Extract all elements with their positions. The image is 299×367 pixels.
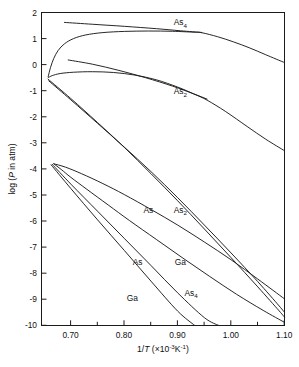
curve-label-as4-lower: As4: [184, 288, 198, 300]
curve-label-as-lower: As: [133, 257, 143, 267]
curve-Ga-lowest-steep-line: [51, 165, 195, 326]
x-axis-title: 1/T (×10-3K-1): [137, 343, 189, 354]
y-tick-label: 1: [32, 34, 37, 44]
curve-label-as4-upper: As4: [174, 17, 188, 29]
label-subscript: 4: [184, 22, 188, 29]
y-axis-ticks: [42, 13, 47, 326]
svg-text:1/T (×10-3K-1): 1/T (×10-3K-1): [137, 343, 189, 354]
label-main: Ga: [127, 293, 139, 303]
y-tick-label: 2: [32, 8, 37, 18]
y-tick-label: -3: [30, 138, 38, 148]
y-tick-label: -10: [25, 320, 37, 330]
y-tick-label: -1: [30, 86, 38, 96]
y-axis-title-pre: log (: [7, 178, 17, 195]
label-main: As: [174, 17, 184, 27]
x-axis-title-close: ): [186, 344, 189, 354]
figure-container: 2 1 0 -1 -2 -3 -4 -5 -6 -7 -8 -9 -10 0.7…: [0, 0, 299, 367]
x-axis-title-open: (×10: [149, 344, 169, 354]
x-tick-label: 1.10: [276, 330, 293, 340]
curve-label-as2-lower: As2: [174, 205, 188, 217]
y-axis-title: log (P in atm): [7, 143, 17, 194]
x-tick-label: 0.70: [62, 330, 79, 340]
label-main: Ga: [175, 257, 187, 267]
y-tick-label: -2: [30, 112, 38, 122]
curve-label-ga-lower: Ga: [127, 293, 139, 303]
x-axis-ticks: [71, 320, 285, 325]
label-main: As: [174, 86, 184, 96]
label-subscript: 4: [194, 292, 198, 299]
x-tick-label: 0.90: [169, 330, 186, 340]
label-main: As: [133, 257, 143, 267]
label-subscript: 2: [184, 91, 188, 98]
chart-svg: 2 1 0 -1 -2 -3 -4 -5 -6 -7 -8 -9 -10 0.7…: [0, 0, 299, 367]
curve-label-as2-upper: As2: [174, 86, 188, 98]
label-main: As: [184, 288, 194, 298]
label-subscript: 2: [184, 209, 188, 216]
curve-As4-gallium-rich-branch: [48, 31, 284, 77]
y-tick-label: -7: [30, 242, 38, 252]
y-tick-label: -8: [30, 268, 38, 278]
y-tick-labels: 2 1 0 -1 -2 -3 -4 -5 -6 -7 -8 -9 -10: [25, 8, 37, 331]
curve-label-ga-upper: Ga: [175, 257, 187, 267]
curve-Ga-lower-loop-branch: [54, 164, 285, 323]
curve-group: [48, 22, 284, 325]
y-axis-title-post: in atm): [7, 143, 17, 172]
y-tick-label: -6: [30, 216, 38, 226]
y-tick-label: 0: [32, 60, 37, 70]
y-tick-label: -4: [30, 164, 38, 174]
label-main: As: [174, 205, 184, 215]
x-tick-label: 0.80: [116, 330, 133, 340]
svg-text:log (P in atm): log (P in atm): [7, 143, 17, 194]
y-tick-label: -5: [30, 190, 38, 200]
x-tick-label: 1.00: [223, 330, 240, 340]
x-tick-labels: 0.70 0.80 0.90 1.00 1.10: [62, 330, 292, 340]
label-main: As: [143, 205, 153, 215]
y-tick-label: -9: [30, 294, 38, 304]
curve-label-as-upper: As: [143, 205, 153, 215]
